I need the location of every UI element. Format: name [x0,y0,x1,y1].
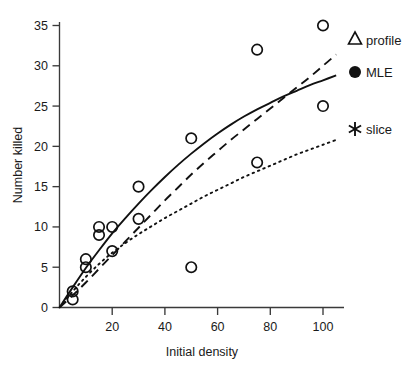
legend-entry-profile: profile [349,32,402,48]
data-point-marker [318,101,328,111]
data-point-marker [252,157,262,167]
y-tick-label: 0 [41,301,48,315]
data-point-marker [252,44,262,54]
data-point-marker [133,214,143,224]
scatter-plot-figure: 05101520253035 20406080100 Initial densi… [0,0,408,373]
data-point-marker [318,20,328,30]
x-axis-ticks [112,308,323,316]
x-axis-tick-labels: 20406080100 [105,320,333,334]
x-tick-label: 100 [313,320,334,334]
data-point-marker [133,181,143,191]
curve-slice [60,140,337,308]
asterisk-icon [349,122,361,136]
data-point-marker [107,222,117,232]
y-tick-label: 35 [34,19,48,33]
y-tick-label: 30 [34,59,48,73]
legend-label-mle: MLE [366,65,393,80]
legend: profile MLE slice [349,32,402,137]
data-point-marker [186,133,196,143]
curve-mle [60,75,337,307]
filled-circle-icon [349,66,361,78]
y-tick-label: 5 [41,261,48,275]
plot-canvas: 05101520253035 20406080100 Initial densi… [0,0,408,373]
legend-label-slice: slice [366,122,392,137]
y-tick-label: 20 [34,140,48,154]
legend-entry-slice: slice [349,122,392,137]
legend-entry-mle: MLE [349,65,393,80]
x-tick-label: 80 [263,320,277,334]
y-axis-ticks [53,26,60,308]
legend-label-profile: profile [366,33,401,48]
y-tick-label: 25 [34,100,48,114]
y-axis-title: Number killed [11,127,25,203]
fitted-curves [60,55,337,308]
y-tick-label: 10 [34,220,48,234]
open-triangle-icon [349,32,362,44]
y-axis-tick-labels: 05101520253035 [34,19,48,315]
y-tick-label: 15 [34,180,48,194]
data-point-marker [186,262,196,272]
x-tick-label: 60 [211,320,225,334]
x-axis-title: Initial density [166,345,239,359]
x-tick-label: 40 [158,320,172,334]
x-tick-label: 20 [105,320,119,334]
